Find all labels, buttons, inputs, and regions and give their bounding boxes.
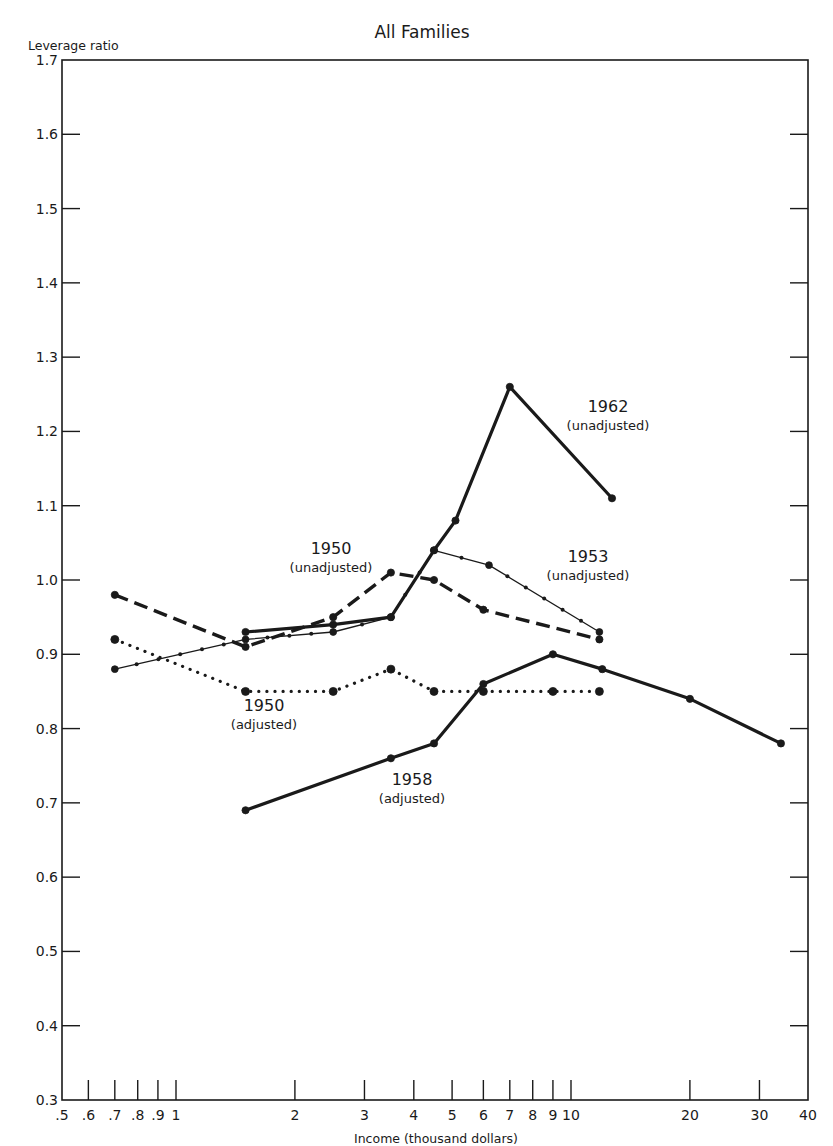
annotation-subtitle: (adjusted) [379,791,445,806]
series-1950-unadjusted [111,569,603,650]
x-tick-label: 2 [290,1107,299,1123]
data-point-marker [480,680,487,687]
data-point-marker [387,755,394,762]
series-line [246,654,781,810]
data-point-marker [329,687,337,695]
data-point-marker [111,666,118,673]
x-tick-label: 5 [448,1107,457,1123]
y-axis-ticks: 0.30.40.50.60.70.80.91.01.11.21.31.41.51… [36,52,808,1108]
y-tick-label: 1.0 [36,572,58,588]
data-point-marker [387,665,395,673]
x-tick-label: 9 [548,1107,557,1123]
y-tick-label: 1.4 [36,275,58,291]
minor-marker [135,662,139,666]
data-point-marker [452,517,459,524]
x-tick-label: 1 [172,1107,181,1123]
series-line [115,573,600,647]
data-point-marker [486,562,493,569]
data-series [111,383,785,814]
data-point-marker [387,569,394,576]
series-annotations: 1962(unadjusted)1953(unadjusted)1950(una… [231,397,650,806]
data-point-marker [549,687,557,695]
y-tick-label: 0.6 [36,869,58,885]
data-point-marker [430,687,438,695]
y-axis-label: Leverage ratio [28,38,119,53]
annotation-subtitle: (unadjusted) [567,418,650,433]
x-tick-label: 20 [681,1107,699,1123]
x-tick-label: .7 [108,1107,121,1123]
minor-marker [287,634,291,638]
data-point-marker [608,495,615,502]
y-tick-label: 0.5 [36,943,58,959]
minor-marker [561,608,565,612]
chart-title: All Families [374,22,469,42]
annotation-label: 1953(unadjusted) [547,547,630,583]
minor-marker [200,647,204,651]
minor-marker [505,574,509,578]
data-point-marker [242,636,249,643]
minor-marker [309,632,313,636]
data-point-marker [242,643,249,650]
series-line [246,387,612,632]
data-point-marker [111,591,118,598]
data-point-marker [686,695,693,702]
minor-marker [403,593,407,597]
data-point-marker [596,629,603,636]
data-point-marker [330,621,337,628]
data-point-marker [330,629,337,636]
annotation-subtitle: (unadjusted) [547,568,630,583]
x-axis-label: Income (thousand dollars) [354,1131,518,1146]
chart-canvas: All Families Leverage ratio Income (thou… [0,0,833,1146]
minor-marker [418,571,422,575]
x-tick-label: 30 [751,1107,769,1123]
data-point-marker [431,547,438,554]
annotation-year: 1950 [244,696,285,715]
annotation-subtitle: (adjusted) [231,717,297,732]
data-point-marker [596,636,603,643]
annotation-subtitle: (unadjusted) [290,560,373,575]
x-tick-label: 6 [479,1107,488,1123]
y-tick-label: 1.7 [36,52,58,68]
y-tick-label: 0.3 [36,1092,58,1108]
chart: All Families Leverage ratio Income (thou… [0,0,833,1146]
data-point-marker [430,740,437,747]
minor-marker [222,642,226,646]
x-tick-label: .5 [55,1107,68,1123]
minor-marker [460,556,464,560]
annotation-year: 1950 [311,539,352,558]
y-tick-label: 1.3 [36,349,58,365]
y-tick-label: 1.6 [36,126,58,142]
data-point-marker [777,740,784,747]
annotation-label: 1950(adjusted) [231,696,297,732]
x-tick-label: 40 [799,1107,817,1123]
minor-marker [524,585,528,589]
x-tick-label: .6 [82,1107,95,1123]
minor-marker [579,619,583,623]
data-point-marker [595,687,603,695]
annotation-year: 1953 [568,547,609,566]
y-tick-label: 1.1 [36,498,58,514]
x-axis-ticks: .5.6.7.8.912345678910203040 [55,1080,817,1123]
y-tick-label: 1.2 [36,423,58,439]
data-point-marker [549,651,556,658]
x-tick-label: .9 [151,1107,164,1123]
data-point-marker [111,635,119,643]
y-tick-label: 0.4 [36,1018,58,1034]
data-point-marker [388,614,395,621]
minor-marker [360,623,364,627]
data-point-marker [242,807,249,814]
y-tick-label: 0.7 [36,795,58,811]
minor-marker [178,652,182,656]
x-tick-label: 3 [360,1107,369,1123]
y-tick-label: 0.9 [36,646,58,662]
data-point-marker [480,606,487,613]
data-point-marker [430,576,437,583]
annotation-year: 1962 [588,397,629,416]
annotation-year: 1958 [392,770,433,789]
x-tick-label: 7 [505,1107,514,1123]
y-tick-label: 1.5 [36,201,58,217]
minor-marker [265,636,269,640]
x-tick-label: .8 [131,1107,144,1123]
data-point-marker [330,614,337,621]
series-1958-adjusted [242,651,785,814]
